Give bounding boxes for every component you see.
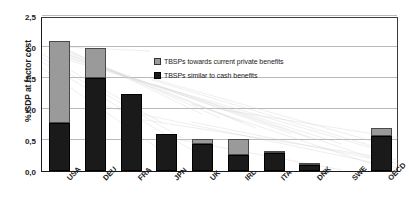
legend-label-private-benefits: TBSPs towards current private benefits: [164, 58, 284, 65]
bar-group: [228, 139, 249, 171]
bar-group: [192, 139, 213, 171]
bar-group: [121, 94, 142, 172]
bar-segment-cash-benefits: [264, 153, 285, 171]
black-swatch-icon: [154, 72, 161, 79]
bar-segment-private-benefits: [49, 41, 70, 122]
bar-segment-cash-benefits: [121, 94, 142, 172]
y-tick-label: 0,5: [8, 137, 36, 146]
bar-group: [264, 152, 285, 171]
bar-segment-private-benefits: [85, 48, 106, 78]
bar-group: [156, 134, 177, 171]
bar-segment-private-benefits: [192, 139, 213, 145]
gray-swatch-icon: [154, 58, 161, 65]
bar-group: [371, 128, 392, 171]
bar-chart: % GDP at factor cost 0,00,51,01,52,02,5: [0, 0, 409, 213]
legend-item-cash-benefits: TBSPs similar to cash benefits: [154, 71, 284, 80]
bar-segment-private-benefits: [264, 151, 285, 153]
bar-group: [49, 41, 70, 171]
bar-group: [85, 48, 106, 171]
y-tick-label: 1,5: [8, 75, 36, 84]
gridline: [42, 15, 397, 16]
y-tick-label: 2,0: [8, 44, 36, 53]
legend-label-cash-benefits: TBSPs similar to cash benefits: [164, 72, 257, 79]
bar-segment-cash-benefits: [49, 123, 70, 171]
bar-group: [299, 164, 320, 171]
bar-segment-cash-benefits: [156, 134, 177, 171]
bars-layer: [42, 18, 397, 171]
legend-item-private-benefits: TBSPs towards current private benefits: [154, 57, 284, 66]
bar-segment-cash-benefits: [85, 78, 106, 171]
bar-segment-cash-benefits: [192, 144, 213, 171]
x-axis-tick-labels: USADEUFRAJPNUKIRLITADNKSWEOECD: [0, 174, 409, 213]
bar-segment-private-benefits: [371, 128, 392, 136]
bar-segment-cash-benefits: [299, 165, 320, 171]
y-tick-label: 1,0: [8, 106, 36, 115]
bar-segment-private-benefits: [299, 163, 320, 165]
y-tick-label: 2,5: [8, 13, 36, 22]
bar-segment-private-benefits: [228, 139, 249, 155]
plot-area: TBSPs towards current private benefits T…: [41, 17, 398, 172]
bar-segment-cash-benefits: [371, 136, 392, 171]
chart-legend: TBSPs towards current private benefits T…: [154, 57, 284, 85]
bar-segment-cash-benefits: [228, 155, 249, 171]
